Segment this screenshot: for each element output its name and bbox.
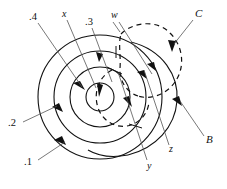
label-level-2: .2: [8, 118, 16, 129]
curve-b-path-tail: [88, 150, 128, 156]
leader-curve-b: [180, 101, 204, 136]
figure-container: .4 x .3 w C .2 .1 y z B: [0, 0, 227, 189]
dashed-contour-c-right: [138, 82, 175, 97]
label-curve-c: C: [195, 8, 202, 19]
label-curve-b: B: [206, 134, 213, 145]
circle-level-2: [54, 51, 146, 143]
label-level-3: .3: [85, 17, 93, 28]
dashed-contour-c-mid: [120, 68, 138, 96]
figure-drawing: [0, 0, 227, 189]
label-y-point: y: [147, 161, 151, 171]
leader-level-2: [23, 106, 57, 122]
leader-level-1: [38, 142, 65, 160]
arrowhead-level-2-top: [96, 52, 103, 62]
leader-w-tick: [113, 22, 120, 32]
tick-cross-upper: [107, 67, 122, 74]
curve-b-group: [88, 42, 177, 156]
label-w-point: w: [111, 10, 118, 20]
arrowheads-group: [52, 40, 182, 145]
leader-level-4: [38, 23, 82, 87]
arrowhead-level-2-upper-right: [147, 62, 156, 71]
dashed-contour-c-lower-loop: [96, 70, 127, 126]
leader-x-point: [67, 20, 96, 88]
leader-y-point: [118, 72, 147, 160]
label-level-1: .1: [24, 157, 32, 168]
label-z-point: z: [169, 144, 173, 154]
arrowhead-level-4: [97, 83, 103, 97]
label-level-4: .4: [29, 12, 37, 23]
curve-b-path: [128, 42, 177, 155]
label-x-point: x: [62, 9, 66, 19]
arrowhead-contour-c: [168, 40, 176, 52]
leader-curve-c: [174, 20, 193, 44]
